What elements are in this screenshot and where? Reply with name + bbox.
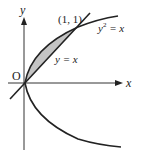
parabola-lower-branch xyxy=(25,83,121,147)
origin-label: O xyxy=(12,69,21,83)
area-between-curves-diagram: y x O (1, 1) y2 = x y = x xyxy=(0,0,143,153)
x-axis-label: x xyxy=(125,76,132,90)
line-y-equals-x xyxy=(10,13,90,99)
y-axis-label: y xyxy=(19,3,26,17)
parabola-equation-label: y2 = x xyxy=(97,21,124,34)
x-axis-arrow-icon xyxy=(115,80,123,86)
line-equation-label: y = x xyxy=(54,53,78,65)
intersection-point-label: (1, 1) xyxy=(58,13,82,26)
y-axis-arrow-icon xyxy=(21,17,27,25)
